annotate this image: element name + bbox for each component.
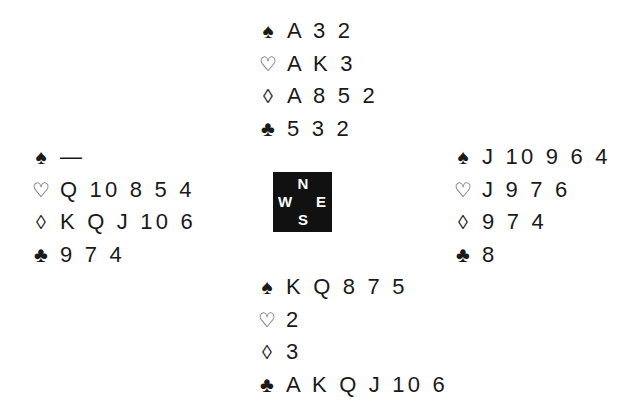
heart-icon: ♡ xyxy=(30,174,52,207)
club-icon: ♣ xyxy=(256,369,278,402)
west-diamonds-cards: K Q J 10 6 xyxy=(60,206,196,239)
diamond-icon: ◊ xyxy=(257,80,279,113)
heart-icon: ♡ xyxy=(257,48,279,81)
spade-icon: ♠ xyxy=(256,271,278,304)
heart-icon: ♡ xyxy=(452,174,474,207)
spade-icon: ♠ xyxy=(30,141,52,174)
south-diamonds-cards: 3 xyxy=(286,336,301,369)
east-clubs-cards: 8 xyxy=(482,239,497,272)
spade-icon: ♠ xyxy=(257,15,279,48)
spade-icon: ♠ xyxy=(452,141,474,174)
diamond-icon: ◊ xyxy=(30,206,52,239)
heart-icon: ♡ xyxy=(256,304,278,337)
east-spades-cards: J 10 9 6 4 xyxy=(482,141,611,174)
east-hearts-cards: J 9 7 6 xyxy=(482,174,570,207)
north-hearts-cards: A K 3 xyxy=(287,48,356,81)
club-icon: ♣ xyxy=(452,239,474,272)
compass-box: N W E S xyxy=(273,172,332,232)
south-hearts-cards: 2 xyxy=(286,304,301,337)
club-icon: ♣ xyxy=(30,239,52,272)
north-spades-cards: A 3 2 xyxy=(287,15,353,48)
west-hearts-cards: Q 10 8 5 4 xyxy=(60,174,195,207)
diamond-icon: ◊ xyxy=(256,336,278,369)
south-clubs-cards: A K Q J 10 6 xyxy=(286,369,448,402)
diamond-icon: ◊ xyxy=(452,206,474,239)
south-spades-cards: K Q 8 7 5 xyxy=(286,271,408,304)
north-diamonds-cards: A 8 5 2 xyxy=(287,80,378,113)
compass-east-label: E xyxy=(313,194,329,209)
west-spades-cards: — xyxy=(60,141,85,174)
compass-south-label: S xyxy=(295,212,311,227)
club-icon: ♣ xyxy=(257,113,279,146)
west-clubs-cards: 9 7 4 xyxy=(60,239,125,272)
compass-west-label: W xyxy=(277,194,293,209)
east-diamonds-cards: 9 7 4 xyxy=(482,206,547,239)
north-clubs-cards: 5 3 2 xyxy=(287,113,352,146)
compass-north-label: N xyxy=(295,176,311,191)
